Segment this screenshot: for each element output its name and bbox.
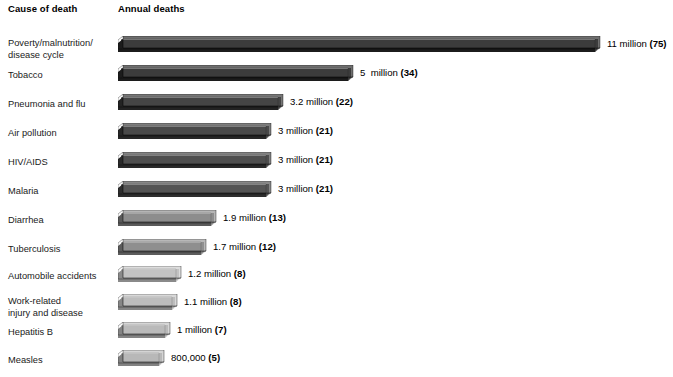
bar-right-cap	[176, 266, 181, 279]
bar-bottom-face	[118, 251, 201, 255]
bar-value-label: 1.2 million (8)	[188, 268, 246, 279]
bar-top-face	[123, 294, 177, 297]
bar-front-face	[121, 297, 175, 306]
bar	[118, 123, 272, 141]
category-label: Tuberculosis	[8, 244, 60, 256]
bar-value-parenthetical: (13)	[269, 212, 286, 223]
bar-value-parenthetical: (21)	[316, 154, 333, 165]
bar-top-face	[123, 266, 181, 269]
bar-right-cap	[211, 210, 216, 223]
bar	[118, 210, 217, 228]
bar-right-cap	[172, 294, 177, 307]
bar	[118, 94, 284, 112]
bar-value-number: 800,000	[171, 352, 208, 363]
bar-right-cap	[595, 36, 600, 49]
category-label: Work-related injury and disease	[8, 296, 83, 319]
bar-bottom-face	[118, 106, 278, 110]
bar-value-parenthetical: (7)	[215, 324, 227, 335]
bar-value-label: 1.9 million (13)	[223, 212, 286, 223]
bar-left-cap	[118, 242, 123, 255]
category-label: HIV/AIDS	[8, 157, 48, 169]
bar-right-cap	[266, 152, 271, 165]
bar-right-cap	[201, 239, 206, 252]
bar-value-label: 3 million (21)	[278, 125, 333, 136]
bar-value-label: 1.1 million (8)	[184, 296, 242, 307]
bar-value-label: 800,000 (5)	[171, 352, 220, 363]
bar-left-cap	[118, 297, 123, 310]
bar-right-cap	[278, 94, 283, 107]
bar	[118, 65, 354, 83]
bar-left-cap	[118, 269, 123, 282]
bar-bottom-face	[118, 164, 266, 168]
bar-value-number: 1 million	[177, 324, 215, 335]
bar-left-cap	[118, 325, 123, 338]
bar	[118, 152, 272, 170]
bar-top-face	[123, 65, 353, 68]
bar-value-parenthetical: (5)	[208, 352, 220, 363]
bar-value-parenthetical: (12)	[259, 241, 276, 252]
bar	[118, 266, 182, 284]
bar-front-face	[121, 184, 269, 193]
bar-value-parenthetical: (34)	[401, 67, 418, 78]
bar-top-face	[123, 210, 216, 213]
bar-right-cap	[165, 322, 170, 335]
bar-front-face	[121, 325, 168, 334]
bar	[118, 350, 165, 368]
bar-bottom-face	[118, 306, 172, 310]
bar-value-label: 3.2 million (22)	[290, 96, 353, 107]
bar-left-cap	[118, 184, 123, 197]
bar-value-label: 11 million (75)	[607, 38, 667, 49]
bar	[118, 239, 207, 257]
bar-front-face	[121, 242, 204, 251]
chart-row: Measles800,000 (5)	[0, 0, 673, 28]
bar-top-face	[123, 239, 206, 242]
bar	[118, 322, 171, 340]
bar-left-cap	[118, 68, 123, 81]
category-label: Hepatitis B	[8, 327, 53, 339]
bar-top-face	[123, 322, 170, 325]
bar-front-face	[121, 39, 598, 48]
bar-value-number: 1.1 million	[184, 296, 230, 307]
bar-value-number: 1.7 million	[213, 241, 259, 252]
bar-top-face	[123, 36, 600, 39]
bar-left-cap	[118, 155, 123, 168]
category-label: Poverty/malnutrition/ disease cycle	[8, 38, 93, 61]
category-label: Malaria	[8, 186, 38, 198]
bar-bottom-face	[118, 135, 266, 139]
bar-front-face	[121, 269, 179, 278]
bar-value-label: 3 million (21)	[278, 154, 333, 165]
bar-value-parenthetical: (21)	[316, 183, 333, 194]
bar-right-cap	[266, 123, 271, 136]
bar-value-parenthetical: (21)	[316, 125, 333, 136]
bar-value-number: 3 million	[278, 125, 316, 136]
bar-bottom-face	[118, 193, 266, 197]
bar-top-face	[123, 94, 283, 97]
bar-value-label: 1 million (7)	[177, 324, 227, 335]
bar-front-face	[121, 126, 269, 135]
bar-right-cap	[348, 65, 353, 78]
bar-bottom-face	[118, 77, 348, 81]
bar-value-number: 3.2 million	[290, 96, 336, 107]
annual-deaths-bar-chart: Cause of death Annual deaths Poverty/mal…	[0, 0, 673, 377]
category-label: Diarrhea	[8, 215, 44, 227]
category-label: Pneumonia and flu	[8, 99, 86, 111]
bar-value-parenthetical: (22)	[336, 96, 353, 107]
bar-value-number: 3 million	[278, 154, 316, 165]
bar-value-number: 3 million	[278, 183, 316, 194]
bar-bottom-face	[118, 334, 165, 338]
bar-left-cap	[118, 126, 123, 139]
bar	[118, 181, 272, 199]
bar-front-face	[121, 353, 162, 362]
bar-top-face	[123, 152, 271, 155]
bar-left-cap	[118, 353, 123, 366]
bar-top-face	[123, 181, 271, 184]
bar-value-number: 1.9 million	[223, 212, 269, 223]
bar-right-cap	[159, 350, 164, 363]
category-label: Tobacco	[8, 70, 43, 82]
bar-value-number: 11 million	[607, 38, 649, 49]
bar-value-label: 1.7 million (12)	[213, 241, 276, 252]
bar-left-cap	[118, 213, 123, 226]
bar-front-face	[121, 97, 281, 106]
bar-value-label: 5 million (34)	[360, 67, 418, 78]
bar-bottom-face	[118, 222, 211, 226]
